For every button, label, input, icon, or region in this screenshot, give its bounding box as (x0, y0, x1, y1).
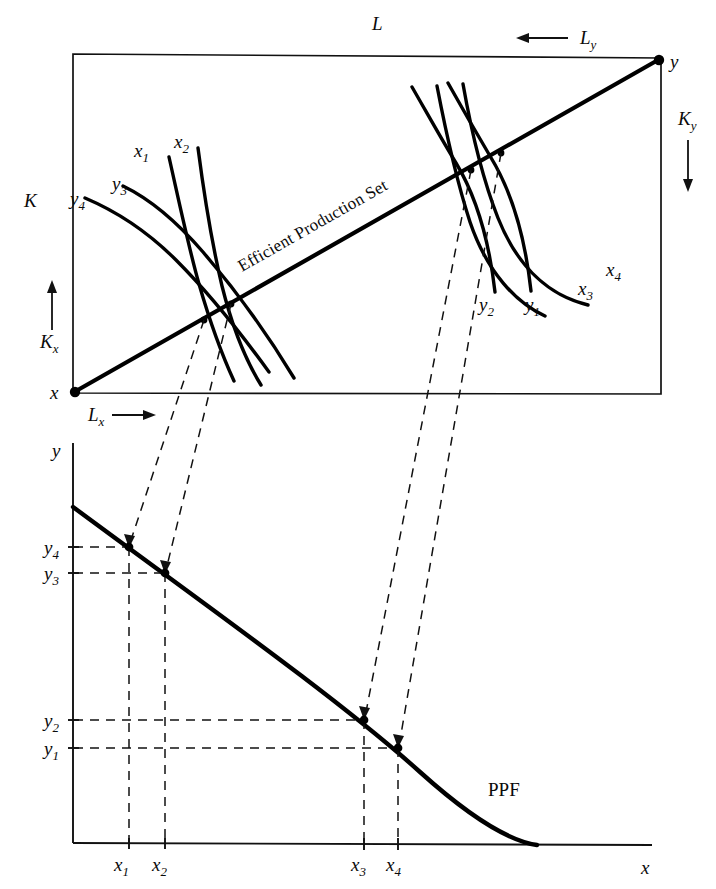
label-K: K (23, 190, 38, 211)
ppf-ytick-label-y1: y1 (42, 738, 59, 763)
economics-figure: Efficient Production Set L K Ly Ky (0, 0, 716, 889)
isoquant-label-y4: y4 (68, 188, 85, 213)
label-Ky: Ky (677, 108, 697, 133)
Ly-annotation: Ly (516, 27, 597, 52)
Ky-annotation: Ky (677, 108, 697, 192)
ppf-x-axis (73, 843, 652, 845)
Kx-arrow-head-icon (47, 280, 57, 293)
ppf-point-x3-y2 (360, 716, 369, 725)
ppf-xtick-label-x4: x4 (385, 854, 401, 879)
isoquant-label-x1: x1 (133, 140, 149, 165)
projection-lines (124, 153, 501, 748)
label-L: L (371, 13, 383, 34)
isoquant-label-x2: x2 (173, 131, 189, 156)
ppf-point-x1-y4 (125, 543, 134, 552)
ppf-xtick-label-x1: x1 (113, 854, 129, 879)
ppf-curve (73, 507, 537, 845)
origin-x-dot (70, 387, 80, 397)
label-origin-y: y (668, 51, 679, 72)
label-Kx: Kx (39, 331, 59, 356)
isoquant-y2-curve (412, 87, 495, 292)
label-Lx: Lx (87, 404, 105, 429)
ppf-ytick-label-y2: y2 (42, 710, 59, 735)
efficient-production-set-line (76, 60, 658, 391)
ppf-x-axis-label: x (640, 857, 650, 878)
ppf-ytick-label-y4: y4 (42, 537, 59, 562)
origin-y-dot (654, 55, 664, 65)
isoquant-labels: x1 x2 x3 x4 y1 y2 y3 y4 (68, 131, 621, 319)
label-Ly: Ly (579, 27, 597, 52)
projection-line-2 (167, 304, 231, 566)
isoquant-label-x4: x4 (605, 259, 621, 284)
isoquant-x4-curve (463, 84, 588, 305)
ppf-ytick-label-y3: y3 (42, 563, 59, 588)
isoquant-label-y2: y2 (477, 294, 494, 319)
ppf-panel: PPF y x y4 y3 y2 y1 x1 x2 x3 x4 (42, 440, 652, 879)
figure-canvas: Efficient Production Set L K Ly Ky (0, 0, 716, 889)
label-origin-x: x (49, 382, 59, 403)
Lx-arrow-head-icon (143, 410, 156, 420)
isoquant-label-y3: y3 (110, 173, 127, 198)
Ly-arrow-head-icon (516, 33, 529, 43)
Lx-annotation: Lx (87, 404, 156, 429)
isoquant-label-y1: y1 (523, 294, 540, 319)
isoquant-label-x3: x3 (577, 278, 593, 303)
Ky-arrow-head-icon (683, 179, 693, 192)
ppf-xtick-label-x2: x2 (151, 854, 167, 879)
Kx-annotation: Kx (39, 280, 59, 356)
ppf-point-x2-y3 (161, 569, 170, 578)
ppf-xtick-label-x3: x3 (350, 854, 366, 879)
box-axis-annotations: L K Ly Ky Kx x y (23, 13, 697, 429)
edgeworth-box-panel: Efficient Production Set (70, 54, 664, 397)
isoquant-x1-curve (169, 157, 234, 381)
ppf-point-x4-y1 (394, 744, 403, 753)
ppf-y-axis-label: y (50, 440, 61, 461)
ppf-label: PPF (488, 779, 520, 800)
